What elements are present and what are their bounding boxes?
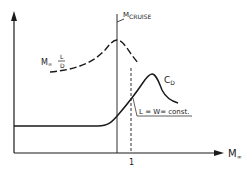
x-tick-label-1: 1	[129, 158, 134, 167]
constraint-label: L = W= const.	[139, 108, 189, 116]
cruise-mach-label: MCRUISE	[123, 11, 151, 20]
x-axis-arrow-icon	[214, 150, 224, 156]
ld-fraction-denominator: D	[60, 62, 65, 69]
drag-coefficient-curve	[14, 74, 178, 126]
diagram-canvas: M∞ MCRUISE 1 M∞ L D CD L = W= const.	[0, 0, 248, 173]
y-axis-arrow-icon	[11, 11, 17, 21]
cd-curve-label: CD	[164, 75, 175, 86]
x-axis-label: M∞	[228, 148, 242, 160]
ld-curve-label: M∞	[41, 58, 52, 67]
cruise-label-leader	[117, 19, 124, 22]
ld-fraction-numerator: L	[60, 53, 64, 60]
